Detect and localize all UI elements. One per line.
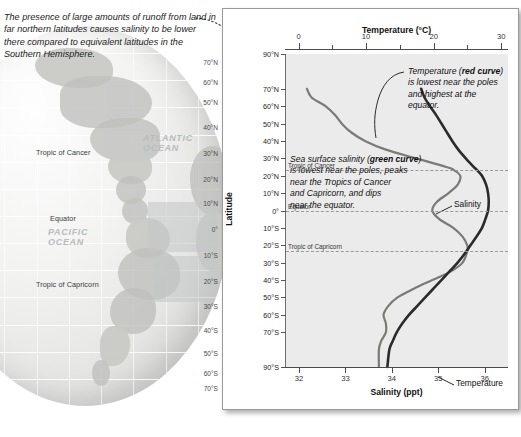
temperature-tick bbox=[501, 43, 502, 50]
annotation-line: Temperature (red curve) bbox=[408, 66, 503, 77]
annotation-line: and highest at the bbox=[408, 89, 503, 100]
salinity-tick bbox=[485, 368, 486, 373]
latitude-tick bbox=[281, 124, 286, 125]
annotation-line: near the Tropics of Cancer bbox=[290, 177, 421, 188]
globe-longitude-gridline bbox=[4, 26, 5, 406]
salinity-tick-label: 32 bbox=[295, 374, 303, 383]
annotation-text: ) bbox=[500, 66, 503, 76]
temperature-tick-label: 10 bbox=[362, 32, 370, 41]
annotation-text: Sea surface salinity ( bbox=[290, 154, 370, 164]
latitude-tick-label: 70°S bbox=[263, 328, 279, 337]
globe-landmass bbox=[100, 326, 130, 366]
salinity-tick-label: 34 bbox=[388, 374, 396, 383]
globe-latitude-label: 70°S bbox=[204, 385, 218, 392]
latitude-tick-label: 50°N bbox=[263, 119, 279, 128]
latitude-tick-label: 40°S bbox=[263, 276, 279, 285]
latitude-tick bbox=[281, 332, 286, 333]
annotation-line: is lowest near the poles bbox=[408, 77, 503, 88]
latitude-tick bbox=[281, 211, 286, 212]
salinity-annotation: Sea surface salinity (green curve)is low… bbox=[290, 154, 421, 211]
globe-latitude-label: 60°S bbox=[204, 370, 218, 377]
globe-latitude-label: 20°S bbox=[204, 278, 218, 285]
annotation-line: equator. bbox=[408, 100, 503, 111]
temperature-annotation-leader bbox=[375, 72, 404, 138]
tropic-of-capricorn: Tropic of Capricorn bbox=[36, 280, 99, 289]
temperature-axis: 0102030 bbox=[285, 49, 508, 50]
salinity-tick bbox=[345, 368, 346, 373]
globe-latitude-label: 40°N bbox=[203, 124, 218, 131]
globe-illustration: Tropic of CancerEquatorTropic of Caprico… bbox=[0, 0, 240, 437]
globe-sphere bbox=[0, 26, 230, 406]
salinity-curve-label: Salinity bbox=[454, 199, 481, 209]
salinity-axis: 3233343536 bbox=[285, 367, 508, 368]
latitude-tick-label: 10°S bbox=[263, 223, 279, 232]
annotation-text: is lowest near the poles, peaks bbox=[290, 165, 408, 175]
globe-latitude-label: 40°S bbox=[204, 327, 218, 334]
globe-latitude-label: 50°N bbox=[203, 99, 218, 106]
latitude-tick bbox=[281, 176, 286, 177]
salinity-tick-label: 35 bbox=[434, 374, 442, 383]
annotation-emphasis: green curve bbox=[370, 154, 419, 164]
figure-caption: The presence of large amounts of runoff … bbox=[4, 11, 218, 61]
annotation-text: and Capricorn, and dips bbox=[290, 188, 381, 198]
temperature-tick bbox=[332, 45, 333, 50]
latitude-tick-label: 20°S bbox=[263, 241, 279, 250]
latitude-tick bbox=[281, 263, 286, 264]
salinity-tick bbox=[299, 368, 300, 373]
latitude-tick-label: 60°N bbox=[263, 102, 279, 111]
annotation-line: Sea surface salinity (green curve) bbox=[290, 154, 421, 165]
equator: Equator bbox=[50, 214, 76, 223]
temperature-curve bbox=[387, 89, 488, 367]
annotation-line: and Capricorn, and dips bbox=[290, 188, 421, 199]
temperature-tick-label: 30 bbox=[497, 32, 505, 41]
pacific-ocean-label: PACIFICOCEAN bbox=[48, 227, 88, 247]
temperature-axis-title: Temperature (°C) bbox=[285, 25, 508, 35]
latitude-tick-label: 90°S bbox=[263, 363, 279, 372]
salinity-tick-label: 33 bbox=[341, 374, 349, 383]
globe-latitude-label: 50°S bbox=[204, 350, 218, 357]
salinity-axis-title: Salinity (ppt) bbox=[285, 387, 508, 397]
plot-area: Tropic of CancerEquatorTropic of Caprico… bbox=[285, 54, 508, 367]
latitude-tick-label: 30°S bbox=[263, 258, 279, 267]
latitude-tick-label: 60°S bbox=[263, 310, 279, 319]
latitude-tick-label: 90°N bbox=[263, 50, 279, 59]
salinity-tick-label: 36 bbox=[481, 374, 489, 383]
latitude-tick bbox=[281, 193, 286, 194]
tropic-of-cancer: Tropic of Cancer bbox=[36, 148, 90, 157]
annotation-text: and highest at the bbox=[408, 89, 476, 99]
annotation-text: is lowest near the poles bbox=[408, 77, 498, 87]
annotation-line: near the equator. bbox=[290, 200, 421, 211]
temperature-tick bbox=[467, 45, 468, 50]
globe-ocean-patch bbox=[148, 202, 218, 252]
latitude-tick bbox=[281, 89, 286, 90]
salinity-tick bbox=[438, 368, 439, 373]
temperature-tick bbox=[434, 43, 435, 50]
latitude-tick-label: 0° bbox=[272, 206, 279, 215]
annotation-text: near the Tropics of Cancer bbox=[290, 177, 391, 187]
temperature-tick bbox=[366, 43, 367, 50]
tropic-of-capricorn-line bbox=[286, 251, 508, 252]
globe-latitude-label: 30°N bbox=[203, 150, 218, 157]
latitude-tick bbox=[281, 297, 286, 298]
latitude-tick bbox=[281, 228, 286, 229]
annotation-text: equator. bbox=[408, 100, 439, 110]
latitude-tick bbox=[281, 54, 286, 55]
annotation-text: ) bbox=[419, 154, 422, 164]
latitude-tick bbox=[281, 106, 286, 107]
globe-latitude-label: 10°S bbox=[204, 252, 218, 259]
latitude-axis-title: Latitude bbox=[224, 192, 234, 225]
globe-longitude-gridline bbox=[37, 26, 38, 406]
temperature-tick bbox=[400, 45, 401, 50]
temperature-annotation: Temperature (red curve)is lowest near th… bbox=[408, 66, 503, 112]
temperature-tick-label: 20 bbox=[429, 32, 437, 41]
atlantic-ocean-label: ATLANTICOCEAN bbox=[143, 133, 193, 153]
latitude-tick bbox=[281, 158, 286, 159]
temperature-tick-label: 0 bbox=[296, 32, 300, 41]
latitude-tick-label: 40°N bbox=[263, 136, 279, 145]
latitude-tick-label: 10°N bbox=[263, 189, 279, 198]
latitude-tick bbox=[281, 280, 286, 281]
salinity-tick bbox=[392, 368, 393, 373]
temperature-tick bbox=[299, 43, 300, 50]
salinity-curve bbox=[307, 89, 468, 367]
annotation-text: Temperature ( bbox=[408, 66, 462, 76]
